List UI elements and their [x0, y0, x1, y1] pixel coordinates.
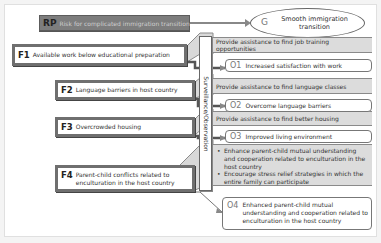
intervention-bullet: Enhance parent-child mutual understandin…	[216, 147, 368, 170]
intervention-bullet-list: Enhance parent-child mutual understandin…	[216, 147, 368, 186]
factor-label: Overcrowded housing	[76, 123, 141, 131]
outcome-o3: O3 Improved living environment	[225, 130, 372, 143]
factor-f1: F1 Available work below educational prep…	[12, 44, 187, 66]
intervention-bullet: Encourage stress relief strategies in wh…	[216, 170, 368, 186]
outcome-code: O3	[230, 132, 241, 141]
factor-f3: F3 Overcrowded housing	[55, 117, 195, 137]
outcome-code: O1	[230, 61, 241, 70]
outcome-label: Overcome language barriers	[245, 102, 331, 110]
outcome-o1: O1 Increased satisfaction with work	[225, 59, 372, 72]
surveillance-bar: Surveillance/Observation	[199, 36, 212, 191]
factor-label: Parent-child conflicts related to encult…	[76, 171, 175, 187]
factor-code: F1	[18, 50, 30, 60]
outcome-o2: O2 Overcome language barriers	[225, 99, 372, 112]
intervention-label: Provide assistance to find job training …	[216, 38, 368, 52]
factor-label-line2: enculturation in the host country	[76, 179, 175, 187]
factor-label: Language barriers in host country	[76, 86, 178, 94]
outcome-label: Increased satisfaction with work	[245, 62, 342, 70]
factor-f2: F2 Language barriers in host country	[55, 80, 195, 100]
outcome-label: Enhanced parent-child mutual understandi…	[242, 201, 371, 224]
factor-label-line1: Parent-child conflicts related to	[76, 171, 175, 179]
factor-label: Available work below educational prepara…	[33, 51, 170, 59]
intervention-4: Enhance parent-child mutual understandin…	[212, 144, 372, 186]
outcome-label: Improved living environment	[245, 133, 332, 141]
factor-code: F4	[61, 170, 73, 180]
intervention-3: Provide assistance to find better housin…	[212, 111, 372, 126]
factor-code: F2	[61, 85, 73, 95]
outcome-o4: O4 Enhanced parent-child mutual understa…	[222, 197, 372, 230]
outcome-code: O2	[230, 101, 241, 110]
intervention-1: Provide assistance to find job training …	[212, 37, 372, 53]
intervention-label: Provide assistance to find language clas…	[216, 83, 346, 90]
intervention-label: Provide assistance to find better housin…	[216, 115, 339, 122]
factor-f4: F4 Parent-child conflicts related to enc…	[55, 165, 195, 192]
intervention-2: Provide assistance to find language clas…	[212, 78, 372, 94]
outcome-code: O4	[227, 201, 238, 210]
surveillance-label: Surveillance/Observation	[202, 76, 209, 151]
factor-code: F3	[61, 122, 73, 132]
